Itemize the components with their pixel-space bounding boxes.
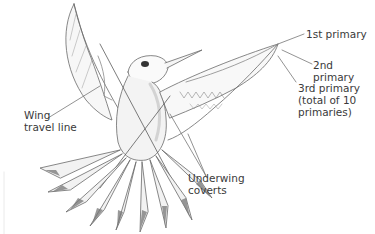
leader-coverts-b (170, 114, 206, 176)
leader-2nd-primary (282, 50, 312, 64)
right-wing (160, 44, 278, 118)
eye (141, 61, 149, 67)
hummingbird-diagram: 1st primary 2nd primary 3rd primary (tot… (0, 0, 375, 234)
label-3rd-primary: 3rd primary (total of 10 primaries) (298, 82, 360, 118)
beak (165, 50, 202, 68)
label-underwing-coverts: Underwing coverts (188, 172, 245, 196)
tail-feathers (40, 150, 212, 232)
label-wing-travel-line: Wing travel line (24, 109, 77, 133)
leader-coverts-a (188, 134, 206, 176)
leader-1st-primary (278, 34, 304, 44)
label-1st-primary: 1st primary (306, 28, 367, 40)
label-2nd-primary: 2nd primary (313, 59, 375, 83)
leader-3rd-primary (278, 56, 296, 82)
